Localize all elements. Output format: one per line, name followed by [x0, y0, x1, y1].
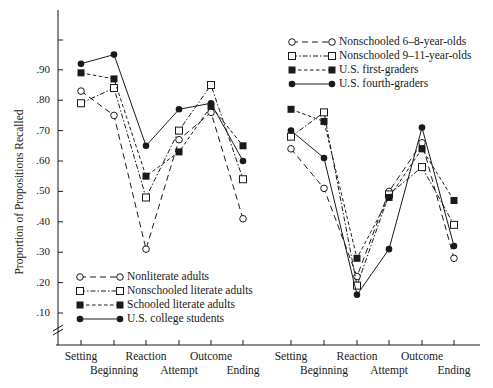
open-square-legend-icon: [329, 53, 336, 60]
open-square-marker: [78, 100, 85, 107]
open-square-legend-icon: [117, 288, 124, 295]
y-ticks: [58, 40, 63, 313]
series-line: [291, 143, 454, 277]
filled-circle-marker: [451, 243, 458, 250]
filled-circle-marker: [176, 106, 183, 113]
open-square-marker: [176, 127, 183, 134]
open-circle-marker: [288, 146, 295, 153]
open-circle-marker: [451, 255, 458, 262]
open-square-marker: [321, 109, 328, 116]
open-square-marker: [111, 85, 118, 92]
open-circle-marker: [419, 139, 426, 146]
filled-circle-marker: [143, 143, 150, 150]
y-tick-label: .40: [22, 215, 50, 227]
filled-square-marker: [111, 75, 118, 82]
open-square-legend-icon: [289, 53, 296, 60]
series-line: [291, 128, 454, 295]
legend-item-label: U.S. fourth-graders: [339, 76, 428, 90]
filled-circle-marker: [354, 291, 361, 298]
open-circle-marker: [111, 112, 118, 119]
filled-square-marker: [143, 173, 150, 180]
open-circle-marker: [143, 246, 150, 253]
legend-item-label: Schooled literate adults: [127, 297, 235, 311]
x-tick-label: Setting: [65, 350, 98, 362]
filled-square-marker: [419, 145, 426, 152]
series-line: [291, 109, 454, 258]
open-square-marker: [451, 221, 458, 228]
x-tick-label: Reaction: [126, 350, 167, 362]
x-tick-label: Reaction: [337, 350, 378, 362]
y-tick-label: .20: [22, 276, 50, 288]
filled-square-legend-icon: [117, 302, 124, 309]
filled-square-marker: [78, 69, 85, 76]
legend-item-label: Nonschooled 6–8-year-olds: [339, 34, 466, 48]
series-line: [81, 85, 243, 197]
open-circle-legend-icon: [117, 274, 124, 281]
y-tick-label: .80: [22, 93, 50, 105]
x-tick-label: Ending: [226, 364, 259, 376]
open-square-marker: [419, 164, 426, 171]
open-square-marker: [240, 176, 247, 183]
filled-circle-marker: [78, 60, 85, 67]
y-tick-label: .60: [22, 154, 50, 166]
y-tick-label: .70: [22, 124, 50, 136]
filled-square-marker: [288, 106, 295, 113]
x-tick-label: Setting: [275, 350, 308, 362]
filled-square-marker: [321, 118, 328, 125]
x-tick-label: Outcome: [190, 350, 232, 362]
filled-square-legend-icon: [329, 67, 336, 74]
legend-item-label: U.S. first-graders: [339, 62, 419, 76]
open-circle-marker: [240, 215, 247, 222]
filled-circle-marker: [111, 51, 118, 58]
open-circle-legend-icon: [77, 274, 84, 281]
filled-circle-legend-icon: [289, 81, 296, 88]
filled-circle-marker: [386, 246, 393, 253]
open-square-marker: [208, 82, 215, 89]
filled-circle-legend-icon: [77, 316, 84, 323]
legend-item-label: Nonschooled literate adults: [127, 283, 253, 297]
y-tick-label: .10: [22, 306, 50, 318]
x-tick-label: Ending: [437, 364, 470, 376]
filled-circle-marker: [240, 158, 247, 165]
series-line: [291, 112, 454, 285]
filled-square-marker: [451, 197, 458, 204]
filled-circle-legend-icon: [329, 81, 336, 88]
x-tick-label: Beginning: [300, 364, 348, 376]
series-line: [81, 91, 243, 249]
open-circle-marker: [176, 136, 183, 143]
legend-item-label: Nonschooled 9–11-year-olds: [339, 48, 472, 62]
filled-square-marker: [354, 255, 361, 262]
legend-item-label: Nonliterate adults: [127, 269, 209, 283]
filled-square-marker: [386, 194, 393, 201]
open-circle-legend-icon: [289, 39, 296, 46]
y-tick-label: .30: [22, 245, 50, 257]
open-circle-marker: [78, 88, 85, 95]
x-tick-label: Attempt: [160, 364, 198, 376]
filled-square-marker: [176, 148, 183, 155]
filled-square-legend-icon: [289, 67, 296, 74]
open-square-marker: [288, 133, 295, 140]
open-circle-legend-icon: [329, 39, 336, 46]
series-line: [81, 73, 243, 176]
filled-circle-marker: [321, 155, 328, 162]
open-square-legend-icon: [77, 288, 84, 295]
x-tick-label: Beginning: [90, 364, 138, 376]
filled-square-legend-icon: [77, 302, 84, 309]
filled-square-marker: [240, 142, 247, 149]
x-ticks: [81, 340, 454, 345]
y-tick-label: .90: [22, 63, 50, 75]
legend-item-label: U.S. college students: [127, 311, 224, 325]
y-tick-label: .50: [22, 184, 50, 196]
x-tick-label: Outcome: [401, 350, 443, 362]
filled-circle-legend-icon: [117, 316, 124, 323]
open-circle-marker: [321, 185, 328, 192]
filled-circle-marker: [419, 124, 426, 131]
x-tick-label: Attempt: [370, 364, 408, 376]
filled-circle-marker: [288, 127, 295, 134]
filled-circle-marker: [208, 100, 215, 107]
open-square-marker: [143, 194, 150, 201]
